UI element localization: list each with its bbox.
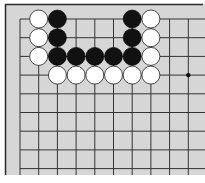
white-stone: [142, 47, 160, 65]
star-point-icon: [186, 73, 190, 77]
black-stone: [105, 47, 123, 65]
black-stone: [123, 47, 141, 65]
white-stone: [30, 47, 48, 65]
white-stone: [86, 66, 104, 84]
star-points: [186, 73, 190, 77]
black-stone: [48, 10, 66, 28]
black-stone: [123, 29, 141, 47]
black-stone: [67, 47, 85, 65]
white-stone: [142, 10, 160, 28]
go-board: [0, 0, 205, 183]
white-stone: [142, 29, 160, 47]
white-stone: [142, 66, 160, 84]
black-stone: [48, 29, 66, 47]
black-stone: [123, 10, 141, 28]
white-stone: [105, 66, 123, 84]
white-stone: [123, 66, 141, 84]
black-stone: [86, 47, 104, 65]
black-stone: [48, 47, 66, 65]
white-stone: [30, 10, 48, 28]
white-stone: [67, 66, 85, 84]
white-stone: [30, 29, 48, 47]
white-stone: [48, 66, 66, 84]
